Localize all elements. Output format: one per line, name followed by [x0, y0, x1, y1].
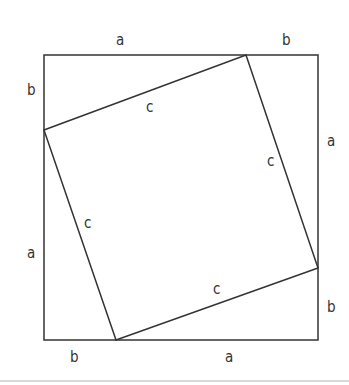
label-right-a: a: [327, 132, 335, 150]
label-top-a: a: [116, 31, 124, 49]
label-bottom-b: b: [70, 348, 79, 366]
label-left-a: a: [27, 244, 35, 262]
label-c-left: c: [84, 214, 91, 232]
label-right-b: b: [327, 298, 336, 316]
inner-square: [44, 55, 318, 340]
pythagoras-diagram: a b b a a b b a c c c c: [0, 0, 349, 385]
diagram-canvas: a b b a a b b a c c c c: [0, 0, 349, 385]
label-top-b: b: [282, 31, 291, 49]
bottom-divider: [0, 380, 349, 382]
label-c-top: c: [146, 98, 153, 116]
label-left-b: b: [27, 81, 36, 99]
outer-square: [44, 55, 318, 340]
label-c-right: c: [267, 152, 274, 170]
label-bottom-a: a: [225, 348, 233, 366]
label-c-bottom: c: [213, 280, 220, 298]
